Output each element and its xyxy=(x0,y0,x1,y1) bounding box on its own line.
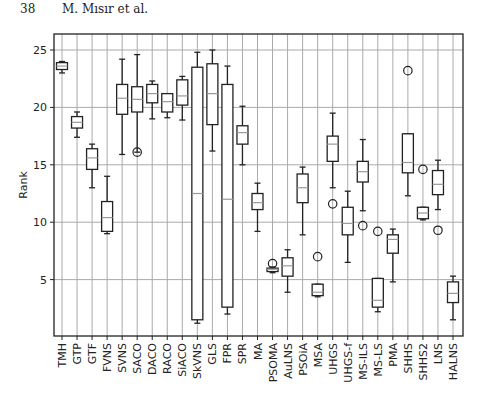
x-tick-label: MS-LS xyxy=(372,343,385,377)
y-axis-label: Rank xyxy=(17,171,30,199)
box-pma xyxy=(387,229,398,282)
grid-lines xyxy=(54,34,463,336)
x-tick-label: HALNS xyxy=(447,343,460,380)
x-tick-label: MA xyxy=(252,343,265,360)
x-axis: TMHGTPGTFFVNSSVNSSACODACORACOSiACOSkVNSG… xyxy=(56,336,460,383)
x-tick-label: SACO xyxy=(131,343,144,374)
y-tick-label: 10 xyxy=(33,216,47,229)
box-gtp xyxy=(72,112,83,137)
box-saco xyxy=(132,55,143,157)
x-tick-label: GLS xyxy=(206,343,219,365)
box-tmh xyxy=(57,61,68,72)
box-fvns xyxy=(102,176,113,233)
x-tick-label: RACO xyxy=(161,343,174,374)
y-tick-label: 15 xyxy=(33,159,47,172)
box-daco xyxy=(147,81,158,119)
y-tick-label: 20 xyxy=(33,101,47,114)
x-tick-label: SVNS xyxy=(116,343,129,373)
x-tick-label: SkVNS xyxy=(191,343,204,379)
x-tick-label: SHHS2 xyxy=(417,343,430,381)
box-siaco xyxy=(177,76,188,120)
y-axis: 510152025 xyxy=(33,44,54,287)
box-psoia xyxy=(297,167,308,235)
x-tick-label: MSA xyxy=(312,343,325,368)
x-tick-label: SHHS xyxy=(402,343,415,374)
box-plot-chart: 510152025 TMHGTPGTFFVNSSVNSSACODACORACOS… xyxy=(0,0,477,412)
box-gtf xyxy=(87,144,98,188)
x-tick-label: UHGS-f xyxy=(342,342,355,383)
x-tick-label: PSOMA xyxy=(267,343,280,383)
x-tick-label: SiACO xyxy=(176,343,189,377)
box-raco xyxy=(162,94,173,118)
x-tick-label: FVNS xyxy=(101,343,114,372)
box-fpr xyxy=(222,66,233,314)
x-tick-label: PSOiA xyxy=(297,343,310,376)
y-tick-label: 5 xyxy=(40,274,47,287)
x-tick-label: FPR xyxy=(221,343,234,364)
plot-frame xyxy=(54,34,463,336)
box-ma xyxy=(252,183,263,231)
box-uhgs-f xyxy=(342,191,353,262)
x-tick-label: PMA xyxy=(387,343,400,367)
x-tick-label: DACO xyxy=(146,343,159,375)
box-spr xyxy=(237,106,248,165)
x-tick-label: TMH xyxy=(56,343,69,368)
box-gls xyxy=(207,50,218,151)
x-tick-label: GTP xyxy=(71,343,84,365)
box-halns xyxy=(448,276,459,320)
x-tick-label: MS-ILS xyxy=(357,343,370,380)
x-tick-label: UHGS xyxy=(327,343,340,375)
x-tick-label: AuLNS xyxy=(282,343,295,379)
x-tick-label: GTF xyxy=(86,343,99,364)
x-tick-label: SPR xyxy=(236,343,249,365)
box-aulns xyxy=(282,250,293,292)
y-tick-label: 25 xyxy=(33,44,47,57)
x-tick-label: LNS xyxy=(432,343,445,364)
box-skvns xyxy=(192,52,203,323)
box-svns xyxy=(117,59,128,154)
